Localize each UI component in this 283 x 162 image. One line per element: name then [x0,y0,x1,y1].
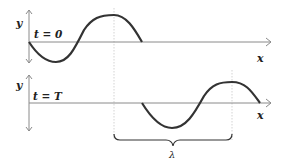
x-axis-bottom [29,99,271,107]
time-label-t0: t = 0 [34,28,63,40]
x-axis-label-bottom: x [256,109,264,122]
wave-tT [142,82,260,128]
x-axis-label-top: x [256,52,264,65]
y-axis-label-top: y [15,17,24,30]
panel-tT: y t = T x [15,75,271,131]
x-axis-top [29,38,271,46]
wavelength-brace [114,134,232,146]
y-axis-top [26,10,32,63]
panel-t0: y t = 0 x [15,10,271,65]
wave-diagram: y t = 0 x y t = T x λ [0,0,283,162]
guide-lines [114,8,232,140]
time-label-tT: t = T [33,90,63,102]
y-axis-label-bottom: y [15,79,24,92]
wavelength-label: λ [168,149,175,160]
